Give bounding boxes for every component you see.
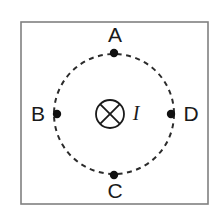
point-dot-d [167, 110, 175, 118]
point-label-a: A [108, 23, 122, 46]
point-label-b: B [31, 102, 45, 125]
physics-figure: I A B C D [0, 0, 219, 219]
point-label-d: D [183, 102, 198, 125]
point-label-c: C [107, 179, 122, 202]
point-dot-a [110, 49, 118, 57]
point-dot-b [53, 110, 61, 118]
figure-canvas: I A B C D [0, 0, 219, 219]
current-label: I [132, 102, 141, 124]
